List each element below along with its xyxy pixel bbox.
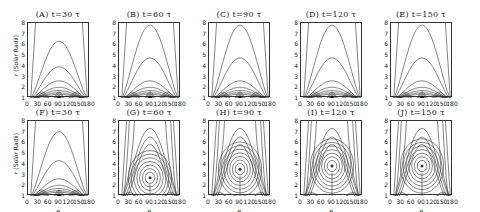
y-axis-ticks: 12345678: [292, 120, 298, 195]
plot-area: [390, 120, 452, 195]
x-axis-label: θ: [208, 208, 270, 212]
panel-c: (C) t=90 τ 12345678 0306090120150180: [208, 22, 270, 97]
y-axis-ticks: 12345678: [200, 22, 206, 97]
panel-f: (F) t=30 τ 12345678 0306090120150180θr (…: [27, 120, 89, 195]
panel-title: (D) t=120 τ: [294, 10, 368, 19]
plot-area: [27, 120, 89, 195]
panel-title: (G) t=60 τ: [112, 108, 186, 117]
plot-area: [208, 120, 270, 195]
plot-area: [118, 22, 180, 97]
plot-area: [208, 22, 270, 97]
panel-b: (B) t=60 τ 12345678 0306090120150180: [118, 22, 180, 97]
panel-j: (J) t=150 τ 12345678 0306090120150180θ: [390, 120, 452, 195]
panel-d: (D) t=120 τ 12345678 0306090120150180: [300, 22, 362, 97]
y-axis-label: r (Solar Radii): [12, 35, 19, 76]
x-axis-label: θ: [300, 208, 362, 212]
panel-title: (A) t=30 τ: [21, 10, 95, 19]
plot-area: [300, 22, 362, 97]
panel-e: (E) t=150 τ 12345678 0306090120150180: [390, 22, 452, 97]
y-axis-ticks: 12345678: [382, 22, 388, 97]
panel-title: (E) t=150 τ: [384, 10, 458, 19]
y-axis-ticks: 12345678: [19, 22, 25, 97]
panel-i: (I) t=120 τ 12345678 0306090120150180θ: [300, 120, 362, 195]
panel-title: (F) t=30 τ: [21, 108, 95, 117]
plot-area: [390, 22, 452, 97]
y-axis-ticks: 12345678: [19, 120, 25, 195]
panel-title: (H) t=90 τ: [202, 108, 276, 117]
panel-g: (G) t=60 τ 12345678 0306090120150180θ: [118, 120, 180, 195]
y-axis-label: r (Solar Radii): [12, 133, 19, 174]
plot-area: [118, 120, 180, 195]
y-axis-ticks: 12345678: [110, 22, 116, 97]
plot-area: [300, 120, 362, 195]
y-axis-ticks: 12345678: [200, 120, 206, 195]
y-axis-ticks: 12345678: [110, 120, 116, 195]
panel-title: (B) t=60 τ: [112, 10, 186, 19]
panel-a: (A) t=30 τ 12345678 0306090120150180r (S…: [27, 22, 89, 97]
panel-title: (C) t=90 τ: [202, 10, 276, 19]
plot-area: [27, 22, 89, 97]
x-axis-label: θ: [390, 208, 452, 212]
x-axis-label: θ: [118, 208, 180, 212]
panel-h: (H) t=90 τ 12345678 0306090120150180θ: [208, 120, 270, 195]
x-axis-label: θ: [27, 208, 89, 212]
y-axis-ticks: 12345678: [292, 22, 298, 97]
panel-title: (J) t=150 τ: [384, 108, 458, 117]
y-axis-ticks: 12345678: [382, 120, 388, 195]
panel-title: (I) t=120 τ: [294, 108, 368, 117]
